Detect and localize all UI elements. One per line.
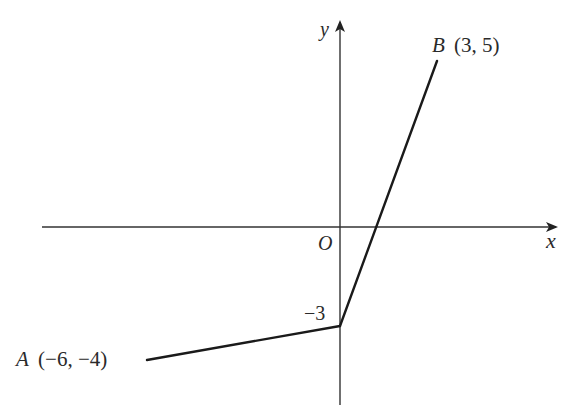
origin-label: O	[318, 232, 332, 254]
y-intercept-label: −3	[304, 302, 325, 324]
y-axis-label: y	[318, 18, 329, 41]
point-b-label: B (3, 5)	[432, 33, 500, 57]
graph-diagram: y x O −3 B (3, 5) A (−6, −4)	[0, 0, 584, 416]
point-b-name: B	[432, 33, 445, 57]
point-a-label: A (−6, −4)	[14, 347, 107, 371]
segment-a-vertex	[147, 326, 340, 360]
x-axis-label: x	[545, 228, 556, 253]
point-b-coords: (3, 5)	[454, 33, 500, 57]
segment-vertex-b	[340, 61, 437, 326]
point-a-coords: (−6, −4)	[38, 347, 107, 371]
point-a-name: A	[14, 347, 29, 371]
